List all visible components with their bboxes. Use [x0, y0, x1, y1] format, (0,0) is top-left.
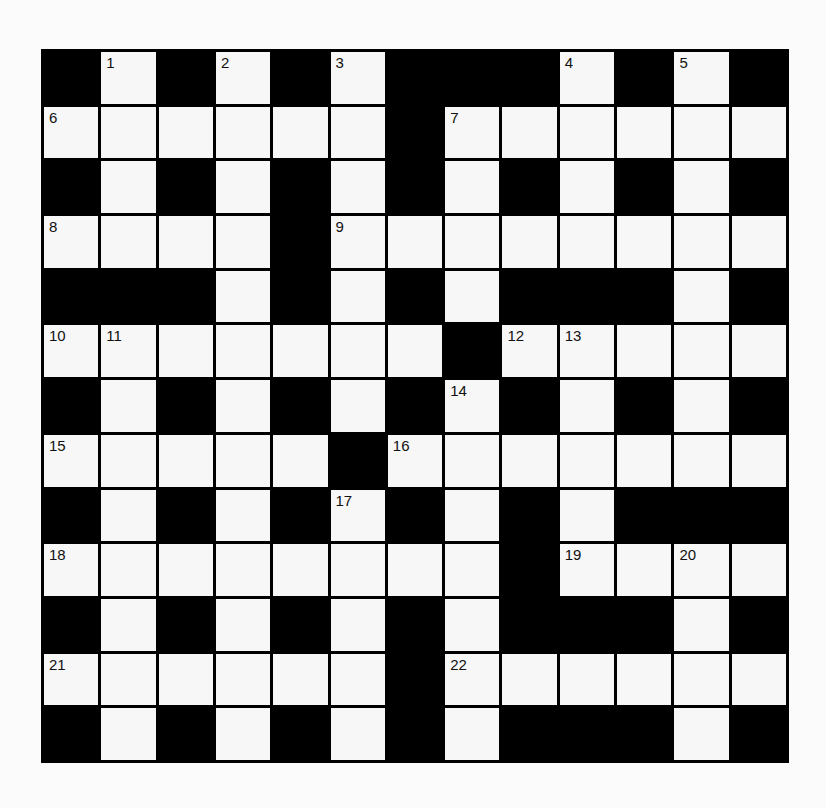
answer-cell[interactable] — [732, 107, 786, 159]
answer-cell[interactable] — [216, 544, 270, 596]
answer-cell[interactable] — [273, 325, 327, 377]
answer-cell[interactable]: 5 — [674, 52, 728, 104]
answer-cell[interactable] — [216, 708, 270, 760]
answer-cell[interactable] — [617, 107, 671, 159]
answer-cell[interactable] — [617, 216, 671, 268]
answer-cell[interactable]: 6 — [44, 107, 98, 159]
answer-cell[interactable] — [617, 654, 671, 706]
answer-cell[interactable] — [445, 544, 499, 596]
answer-cell[interactable]: 3 — [331, 52, 385, 104]
answer-cell[interactable] — [445, 216, 499, 268]
answer-cell[interactable] — [732, 325, 786, 377]
answer-cell[interactable] — [732, 216, 786, 268]
answer-cell[interactable] — [216, 107, 270, 159]
answer-cell[interactable] — [216, 380, 270, 432]
answer-cell[interactable]: 22 — [445, 654, 499, 706]
answer-cell[interactable] — [560, 380, 614, 432]
answer-cell[interactable] — [331, 544, 385, 596]
answer-cell[interactable] — [101, 490, 155, 542]
answer-cell[interactable] — [216, 161, 270, 213]
answer-cell[interactable] — [331, 380, 385, 432]
answer-cell[interactable] — [502, 107, 556, 159]
answer-cell[interactable] — [445, 435, 499, 487]
answer-cell[interactable]: 19 — [560, 544, 614, 596]
answer-cell[interactable] — [159, 435, 213, 487]
answer-cell[interactable] — [674, 654, 728, 706]
answer-cell[interactable]: 14 — [445, 380, 499, 432]
answer-cell[interactable] — [674, 216, 728, 268]
answer-cell[interactable] — [560, 107, 614, 159]
answer-cell[interactable] — [331, 654, 385, 706]
answer-cell[interactable] — [216, 435, 270, 487]
answer-cell[interactable] — [331, 325, 385, 377]
answer-cell[interactable] — [216, 490, 270, 542]
answer-cell[interactable] — [732, 654, 786, 706]
answer-cell[interactable] — [101, 435, 155, 487]
answer-cell[interactable] — [674, 325, 728, 377]
answer-cell[interactable] — [388, 544, 442, 596]
answer-cell[interactable] — [101, 599, 155, 651]
answer-cell[interactable] — [273, 654, 327, 706]
answer-cell[interactable]: 21 — [44, 654, 98, 706]
answer-cell[interactable]: 11 — [101, 325, 155, 377]
answer-cell[interactable] — [674, 599, 728, 651]
answer-cell[interactable] — [674, 161, 728, 213]
answer-cell[interactable] — [331, 708, 385, 760]
answer-cell[interactable] — [674, 435, 728, 487]
answer-cell[interactable] — [273, 107, 327, 159]
answer-cell[interactable] — [101, 107, 155, 159]
answer-cell[interactable] — [331, 599, 385, 651]
answer-cell[interactable] — [617, 435, 671, 487]
answer-cell[interactable] — [159, 216, 213, 268]
answer-cell[interactable]: 10 — [44, 325, 98, 377]
answer-cell[interactable]: 16 — [388, 435, 442, 487]
answer-cell[interactable] — [560, 654, 614, 706]
answer-cell[interactable] — [445, 490, 499, 542]
answer-cell[interactable]: 8 — [44, 216, 98, 268]
answer-cell[interactable]: 2 — [216, 52, 270, 104]
answer-cell[interactable] — [216, 325, 270, 377]
answer-cell[interactable] — [560, 216, 614, 268]
answer-cell[interactable]: 13 — [560, 325, 614, 377]
answer-cell[interactable] — [388, 325, 442, 377]
answer-cell[interactable] — [273, 435, 327, 487]
answer-cell[interactable] — [502, 216, 556, 268]
answer-cell[interactable] — [674, 107, 728, 159]
answer-cell[interactable] — [101, 161, 155, 213]
answer-cell[interactable] — [159, 654, 213, 706]
answer-cell[interactable]: 20 — [674, 544, 728, 596]
answer-cell[interactable] — [732, 544, 786, 596]
answer-cell[interactable] — [216, 271, 270, 323]
answer-cell[interactable]: 17 — [331, 490, 385, 542]
answer-cell[interactable] — [216, 654, 270, 706]
answer-cell[interactable] — [674, 708, 728, 760]
answer-cell[interactable] — [159, 544, 213, 596]
answer-cell[interactable] — [445, 708, 499, 760]
answer-cell[interactable] — [101, 708, 155, 760]
answer-cell[interactable] — [445, 599, 499, 651]
answer-cell[interactable] — [617, 325, 671, 377]
answer-cell[interactable] — [331, 107, 385, 159]
answer-cell[interactable]: 4 — [560, 52, 614, 104]
answer-cell[interactable]: 7 — [445, 107, 499, 159]
answer-cell[interactable] — [101, 544, 155, 596]
answer-cell[interactable] — [560, 490, 614, 542]
answer-cell[interactable] — [101, 216, 155, 268]
answer-cell[interactable]: 15 — [44, 435, 98, 487]
answer-cell[interactable]: 9 — [331, 216, 385, 268]
answer-cell[interactable] — [560, 161, 614, 213]
answer-cell[interactable] — [560, 435, 614, 487]
answer-cell[interactable] — [159, 107, 213, 159]
answer-cell[interactable] — [732, 435, 786, 487]
answer-cell[interactable] — [101, 654, 155, 706]
answer-cell[interactable]: 12 — [502, 325, 556, 377]
answer-cell[interactable] — [388, 216, 442, 268]
answer-cell[interactable] — [216, 599, 270, 651]
answer-cell[interactable]: 18 — [44, 544, 98, 596]
answer-cell[interactable] — [331, 161, 385, 213]
answer-cell[interactable] — [445, 161, 499, 213]
answer-cell[interactable] — [502, 654, 556, 706]
answer-cell[interactable] — [445, 271, 499, 323]
answer-cell[interactable] — [331, 271, 385, 323]
answer-cell[interactable] — [216, 216, 270, 268]
